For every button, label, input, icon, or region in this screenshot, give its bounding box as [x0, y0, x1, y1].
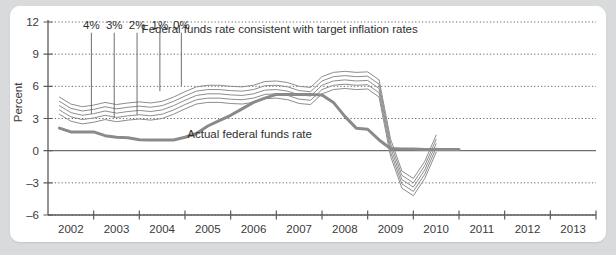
- x-tick-label: 2004: [149, 223, 175, 235]
- y-tick-label: 12: [26, 16, 39, 28]
- actual-rate-label: Actual federal funds rate: [187, 128, 312, 140]
- y-tick-label: 6: [33, 80, 39, 92]
- callout-label: 3%: [106, 19, 123, 31]
- x-tick-label: 2007: [286, 223, 312, 235]
- plot-background: [10, 6, 606, 242]
- y-tick-label: –6: [26, 209, 39, 221]
- x-tick-label: 2013: [560, 223, 586, 235]
- x-tick-label: 2012: [515, 223, 541, 235]
- x-tick-label: 2009: [378, 223, 404, 235]
- y-axis-title: Percent: [12, 82, 24, 122]
- y-tick-label: 9: [33, 48, 39, 60]
- x-tick-label: 2010: [423, 223, 449, 235]
- y-tick-label: 3: [33, 113, 39, 125]
- x-tick-label: 2003: [104, 223, 130, 235]
- x-tick-label: 2005: [195, 223, 221, 235]
- x-tick-label: 2006: [241, 223, 267, 235]
- figure-card: 129630–3–6 20022003200420052006200720082…: [10, 6, 606, 242]
- x-tick-label: 2002: [58, 223, 84, 235]
- target-rates-title: Federal funds rate consistent with targe…: [142, 23, 418, 35]
- x-tick-label: 2008: [332, 223, 358, 235]
- y-tick-label: 0: [33, 145, 39, 157]
- x-tick-label: 2011: [469, 223, 494, 235]
- callout-label: 4%: [83, 19, 100, 31]
- federal-funds-rate-chart: 129630–3–6 20022003200420052006200720082…: [10, 6, 606, 242]
- y-tick-label: –3: [26, 177, 39, 189]
